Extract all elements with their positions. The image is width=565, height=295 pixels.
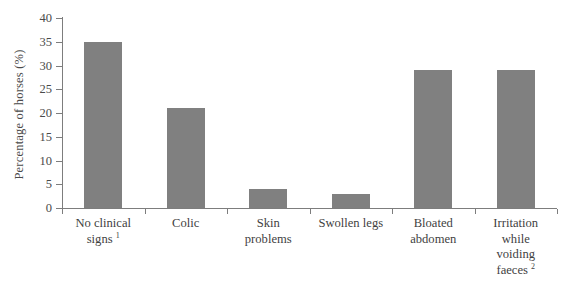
y-tick-label: 0 (8, 202, 52, 215)
x-tick-mark (475, 209, 476, 214)
y-tick-label: 40 (8, 12, 52, 25)
bar-chart: Percentage of horses (%) 403530252015105… (0, 0, 565, 295)
bar (167, 108, 205, 208)
bar (84, 42, 122, 208)
x-category-label: Colic (139, 216, 234, 232)
bar (249, 189, 287, 208)
x-category-label: No clinicalsigns 1 (56, 216, 151, 247)
y-tick-label: 5 (8, 178, 52, 191)
y-tick-label: 15 (8, 131, 52, 144)
x-category-label: Bloatedabdomen (386, 216, 481, 247)
bar (332, 194, 370, 208)
x-tick-mark (145, 209, 146, 214)
x-tick-mark (557, 209, 558, 214)
bar (497, 70, 535, 208)
bar (414, 70, 452, 208)
y-tick-label: 30 (8, 60, 52, 73)
y-tick-label: 20 (8, 107, 52, 120)
x-tick-mark (392, 209, 393, 214)
x-axis-category-labels: No clinicalsigns 1ColicSkinproblemsSwoll… (62, 216, 557, 294)
x-tick-mark (227, 209, 228, 214)
bars-layer (62, 18, 557, 208)
x-category-label: Irritationwhilevoidingfaeces 2 (469, 216, 564, 278)
x-category-label: Skinproblems (221, 216, 316, 247)
y-tick-label: 35 (8, 36, 52, 49)
y-tick-label: 10 (8, 155, 52, 168)
x-tick-mark (310, 209, 311, 214)
x-category-label: Swollen legs (304, 216, 399, 232)
y-tick-label: 25 (8, 83, 52, 96)
x-tick-mark (62, 209, 63, 214)
